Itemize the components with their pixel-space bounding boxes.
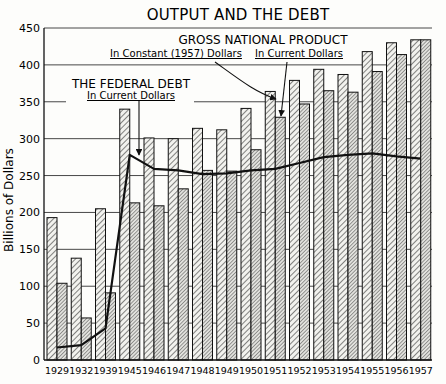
bar-gnp-constant — [120, 109, 130, 360]
gnp-debt-chart: OUTPUT AND THE DEBT 05010015020025030035… — [0, 0, 446, 384]
bar-gnp-constant — [96, 209, 106, 360]
x-tick-label: 1949 — [215, 365, 239, 376]
bar-gnp-current — [106, 293, 116, 360]
bar-gnp-current — [130, 203, 140, 360]
bar-gnp-constant — [217, 130, 227, 360]
bar-gnp-current — [348, 92, 358, 360]
x-tick-label: 1954 — [336, 365, 360, 376]
bar-gnp-current — [397, 55, 407, 360]
x-axis-ticks: 1929193219391945194619471948194919501951… — [45, 365, 433, 376]
x-tick-label: 1951 — [263, 365, 287, 376]
x-tick-label: 1956 — [384, 365, 408, 376]
debt-current-label: In Current Dollars — [87, 90, 175, 101]
bar-gnp-current — [154, 206, 164, 360]
x-tick-label: 1955 — [360, 365, 384, 376]
bar-gnp-constant — [241, 108, 251, 360]
y-tick-label: 300 — [19, 133, 40, 146]
x-tick-label: 1952 — [287, 365, 311, 376]
bar-gnp-constant — [362, 52, 372, 360]
bar-gnp-constant — [411, 40, 421, 360]
y-tick-label: 0 — [33, 354, 40, 367]
gnp-current-arrow — [281, 62, 287, 116]
chart-title: OUTPUT AND THE DEBT — [147, 6, 330, 24]
bar-gnp-current — [251, 150, 261, 360]
bar-gnp-current — [227, 171, 237, 360]
y-axis-ticks: 050100150200250300350400450 — [19, 22, 40, 367]
x-tick-label: 1950 — [239, 365, 263, 376]
bar-gnp-constant — [290, 80, 300, 360]
bar-gnp-constant — [168, 139, 178, 360]
bar-gnp-constant — [47, 218, 57, 360]
y-tick-label: 450 — [19, 22, 40, 35]
y-tick-label: 100 — [19, 280, 40, 293]
gnp-constant-label: In Constant (1957) Dollars — [110, 48, 242, 59]
bar-gnp-current — [57, 283, 67, 360]
bar-gnp-current — [372, 72, 382, 360]
bar-gnp-current — [421, 40, 431, 360]
x-tick-label: 1947 — [166, 365, 190, 376]
x-tick-label: 1946 — [142, 365, 166, 376]
y-tick-label: 350 — [19, 96, 40, 109]
bar-gnp-constant — [144, 138, 154, 360]
bar-gnp-current — [324, 91, 334, 360]
y-tick-label: 400 — [19, 59, 40, 72]
x-tick-label: 1929 — [45, 365, 69, 376]
x-tick-label: 1957 — [409, 365, 433, 376]
bar-gnp-current — [275, 117, 285, 360]
bar-gnp-constant — [338, 74, 348, 360]
x-tick-label: 1939 — [93, 365, 117, 376]
x-tick-label: 1948 — [190, 365, 214, 376]
y-axis-label: Billions of Dollars — [2, 148, 16, 252]
y-tick-label: 200 — [19, 206, 40, 219]
x-tick-label: 1932 — [69, 365, 93, 376]
debt-heading: THE FEDERAL DEBT — [71, 77, 191, 91]
y-tick-label: 150 — [19, 243, 40, 256]
bar-gnp-current — [178, 189, 188, 360]
gnp-current-label: In Current Dollars — [255, 48, 343, 59]
bar-gnp-current — [203, 170, 213, 360]
gnp-heading: GROSS NATIONAL PRODUCT — [178, 33, 348, 47]
bar-gnp-constant — [193, 128, 203, 360]
y-tick-label: 50 — [26, 317, 40, 330]
y-tick-label: 250 — [19, 170, 40, 183]
x-tick-label: 1953 — [312, 365, 336, 376]
bar-gnp-constant — [314, 69, 324, 360]
bar-gnp-constant — [387, 43, 397, 360]
bar-gnp-current — [300, 104, 310, 360]
bar-gnp-constant — [265, 91, 275, 360]
x-tick-label: 1945 — [118, 365, 142, 376]
